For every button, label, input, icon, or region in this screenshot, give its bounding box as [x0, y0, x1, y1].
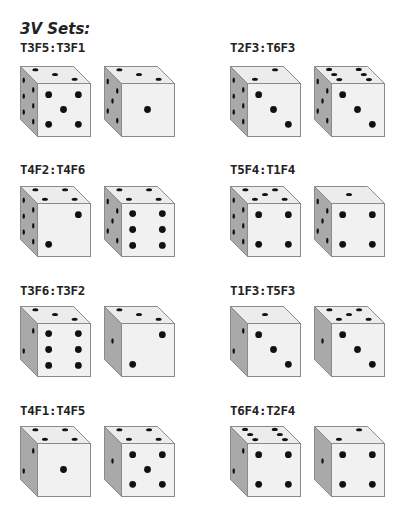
dice-set-5: T3F6:T3F2 [20, 283, 210, 398]
dice-set-3: T4F2:T4F6 [20, 162, 210, 277]
dice-set-6: T1F3:T5F3 [230, 283, 411, 398]
set-label: T4F1:T4F5 [20, 403, 85, 418]
die-icon [314, 66, 386, 138]
die-icon [104, 186, 176, 258]
die-icon [314, 306, 386, 378]
die-icon [230, 306, 302, 378]
die-icon [314, 186, 386, 258]
dice-set-2: T2F3:T6F3 [230, 40, 411, 155]
set-label: T2F3:T6F3 [230, 40, 295, 55]
section-heading: 3V Sets: [20, 20, 90, 38]
die-icon [104, 66, 176, 138]
die-icon [20, 306, 92, 378]
die-icon [230, 66, 302, 138]
die-icon [20, 186, 92, 258]
die-icon [104, 426, 176, 498]
set-label: T6F4:T2F4 [230, 403, 295, 418]
die-icon [314, 426, 386, 498]
die-icon [20, 426, 92, 498]
dice-set-1: T3F5:T3F1 [20, 40, 210, 155]
set-label: T3F5:T3F1 [20, 40, 85, 55]
die-icon [20, 66, 92, 138]
dice-set-8: T6F4:T2F4 [230, 403, 411, 517]
dice-set-7: T4F1:T4F5 [20, 403, 210, 517]
set-label: T3F6:T3F2 [20, 283, 85, 298]
die-icon [104, 306, 176, 378]
set-label: T1F3:T5F3 [230, 283, 295, 298]
set-label: T5F4:T1F4 [230, 162, 295, 177]
set-label: T4F2:T4F6 [20, 162, 85, 177]
die-icon [230, 186, 302, 258]
die-icon [230, 426, 302, 498]
dice-set-4: T5F4:T1F4 [230, 162, 411, 277]
